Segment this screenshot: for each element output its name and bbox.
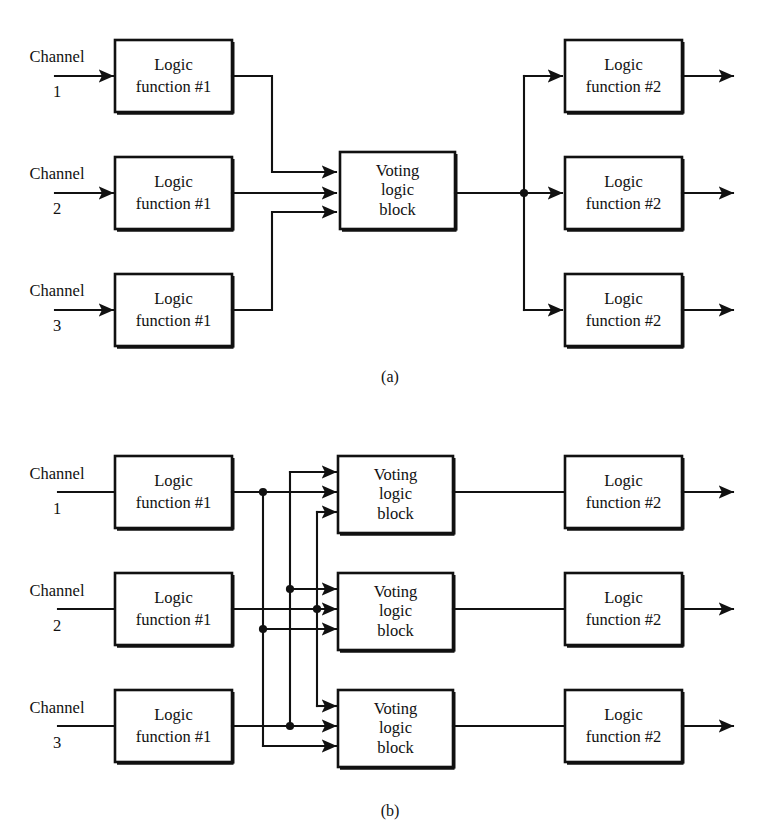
panel-b-channel-3-name: Channel <box>30 698 85 717</box>
panel-b-channel-1-name: Channel <box>30 464 85 483</box>
panel-b-logic1-block-2: Logic function #1 <box>115 573 234 647</box>
logic2-block-1-line1: Logic <box>604 55 643 74</box>
channel-3-number: 3 <box>53 316 61 335</box>
panel-b-channel-inputs <box>58 492 113 726</box>
logic2-block-3-line2: function #2 <box>586 311 662 330</box>
panel-a-logic2-block-2: Logic function #2 <box>565 157 684 231</box>
logic2-block-3-line1: Logic <box>604 289 643 308</box>
panel-a-voting-block: Voting logic block <box>340 152 457 231</box>
panel-b-logic2-block-1: Logic function #2 <box>565 456 684 530</box>
channel-2-name: Channel <box>30 164 85 183</box>
panel-a-logic1-block-1: Logic function #1 <box>115 40 234 114</box>
panel-b-voting-1-line2: logic <box>379 484 412 503</box>
panel-a-logic1-block-3: Logic function #1 <box>115 274 234 348</box>
panel-b-logic1-block-1-line2: function #1 <box>136 493 212 512</box>
logic2-block-1-line2: function #2 <box>586 77 662 96</box>
logic1-block-2-line2: function #1 <box>136 194 212 213</box>
panel-a-channel-labels: Channel 1 Channel 2 Channel 3 <box>30 47 85 335</box>
panel-b-voting-3-line3: block <box>377 738 414 757</box>
logic1-block-1-line2: function #1 <box>136 77 212 96</box>
panel-b-voting-block-1: Voting logic block <box>338 456 455 535</box>
panel-b-channel-1-number: 1 <box>53 499 61 518</box>
panel-b-logic1-block-2-line2: function #1 <box>136 610 212 629</box>
panel-b-voting-3-line1: Voting <box>374 699 418 718</box>
panel-b-channel-3-number: 3 <box>53 733 61 752</box>
panel-a-logic2-block-1: Logic function #2 <box>565 40 684 114</box>
panel-b-logic2-block-1-line2: function #2 <box>586 493 662 512</box>
logic1-block-2-line1: Logic <box>154 172 193 191</box>
panel-b-voting-2-line1: Voting <box>374 582 418 601</box>
panel-b-channel-2-name: Channel <box>30 581 85 600</box>
panel-b-junction-ch1-row2 <box>259 625 267 633</box>
panel-b-voting-1-line1: Voting <box>374 465 418 484</box>
logic2-block-2-line1: Logic <box>604 172 643 191</box>
panel-b-voting-3-line2: logic <box>379 718 412 737</box>
panel-b-voting-block-3: Voting logic block <box>338 690 455 769</box>
panel-b-channel-labels: Channel 1 Channel 2 Channel 3 <box>30 464 85 752</box>
panel-b-logic2-block-3: Logic function #2 <box>565 690 684 764</box>
voting-block-a-line3: block <box>379 200 416 219</box>
voting-block-a-line1: Voting <box>376 161 420 180</box>
panel-b-logic2-block-3-line2: function #2 <box>586 727 662 746</box>
block-diagram-canvas: Channel 1 Channel 2 Channel 3 Logic func… <box>0 0 762 838</box>
panel-b-logic2-block-2-line2: function #2 <box>586 610 662 629</box>
channel-1-to-voting-wire <box>232 76 336 172</box>
panel-a: Channel 1 Channel 2 Channel 3 Logic func… <box>30 40 734 386</box>
panel-b-junction-ch1-bus <box>259 488 267 496</box>
panel-a-caption: (a) <box>381 368 399 386</box>
channel-3-name: Channel <box>30 281 85 300</box>
channel-1-name: Channel <box>30 47 85 66</box>
panel-b-logic2-block-1-line1: Logic <box>604 471 643 490</box>
channel-1-number: 1 <box>53 82 61 101</box>
channel-2-number: 2 <box>53 199 61 218</box>
logic1-block-1-line1: Logic <box>154 55 193 74</box>
panel-b-junction-ch3-row2 <box>286 585 294 593</box>
panel-b-logic1-block-1-line1: Logic <box>154 471 193 490</box>
panel-b-logic2-block-3-line1: Logic <box>604 705 643 724</box>
panel-b-voting-2-line2: logic <box>379 601 412 620</box>
voting-block-a-line2: logic <box>381 180 414 199</box>
panel-b-channel-2-number: 2 <box>53 616 61 635</box>
panel-b-logic1-block-3-line1: Logic <box>154 705 193 724</box>
logic1-block-3-line1: Logic <box>154 289 193 308</box>
panel-a-channel-inputs <box>55 76 113 310</box>
panel-b-voting-1-line3: block <box>377 504 414 523</box>
panel-b-caption: (b) <box>381 802 400 820</box>
figure-root: Channel 1 Channel 2 Channel 3 Logic func… <box>0 0 762 838</box>
panel-b-logic1-block-3: Logic function #1 <box>115 690 234 764</box>
panel-b-voting-2-line3: block <box>377 621 414 640</box>
panel-b-logic1-block-2-line1: Logic <box>154 588 193 607</box>
panel-b-voting-block-2: Voting logic block <box>338 573 455 652</box>
panel-b: Channel 1 Channel 2 Channel 3 Logic func… <box>30 456 734 820</box>
panel-b-logic2-block-2-line1: Logic <box>604 588 643 607</box>
channel-3-to-voting-wire <box>232 212 336 310</box>
panel-a-logic2-block-3: Logic function #2 <box>565 274 684 348</box>
panel-b-logic2-block-2: Logic function #2 <box>565 573 684 647</box>
panel-b-junction-ch2-bus <box>313 605 321 613</box>
panel-a-logic1-block-2: Logic function #1 <box>115 157 234 231</box>
panel-b-junction-ch3-bus <box>286 722 294 730</box>
panel-b-logic1-block-1: Logic function #1 <box>115 456 234 530</box>
logic1-block-3-line2: function #1 <box>136 311 212 330</box>
panel-b-logic1-block-3-line2: function #1 <box>136 727 212 746</box>
logic2-block-2-line2: function #2 <box>586 194 662 213</box>
